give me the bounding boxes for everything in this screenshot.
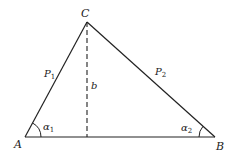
angle-arc-alpha2 [199,126,203,137]
side-label-p1: P1 [43,68,55,81]
side-bc [87,22,215,137]
side-ac [25,22,87,137]
vertex-label-a: A [13,138,22,151]
vertex-label-c: C [81,7,90,20]
angle-arc-alpha1 [33,123,41,137]
triangle-diagram: C A B P1 P2 b α1 α2 [0,0,233,156]
altitude-label-b: b [91,80,97,91]
angle-label-alpha2: α2 [181,122,192,135]
vertex-label-b: B [215,140,224,153]
side-label-p2: P2 [154,66,166,79]
diagram-svg: C A B P1 P2 b α1 α2 [0,0,233,156]
angle-label-alpha1: α1 [43,121,54,134]
